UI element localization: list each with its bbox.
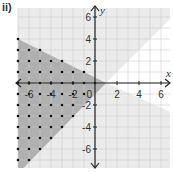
lattice-dot	[17, 159, 20, 162]
x-tick-label: 4	[136, 89, 142, 100]
lattice-dot	[17, 137, 20, 140]
lattice-dot	[61, 60, 64, 63]
x-tick-label: -6	[25, 89, 34, 100]
lattice-dot	[61, 104, 64, 107]
lattice-dot	[28, 148, 31, 151]
coordinate-plane: -6-4-2246642-2-4-60xy	[0, 0, 173, 172]
lattice-dot	[72, 115, 75, 118]
y-tick-label: -4	[82, 122, 91, 133]
lattice-dot	[28, 126, 31, 129]
lattice-dot	[17, 126, 20, 129]
x-tick-label: 6	[158, 89, 164, 100]
lattice-dot	[61, 115, 64, 118]
lattice-dot	[39, 104, 42, 107]
lattice-dot	[50, 137, 53, 140]
lattice-dot	[61, 71, 64, 74]
shaded-regions	[18, 8, 170, 168]
lattice-dot	[39, 148, 42, 151]
lattice-dot	[39, 49, 42, 52]
lattice-dot	[28, 49, 31, 52]
y-axis-name: y	[99, 4, 105, 16]
lattice-dot	[83, 71, 86, 74]
lattice-dot	[50, 60, 53, 63]
lattice-dot	[28, 137, 31, 140]
lattice-dot	[28, 60, 31, 63]
lattice-dot	[17, 49, 20, 52]
y-tick-label: 2	[85, 56, 91, 67]
lattice-dot	[50, 104, 53, 107]
lattice-dot	[17, 60, 20, 63]
lattice-dot	[39, 60, 42, 63]
lattice-dot	[28, 71, 31, 74]
lattice-dot	[83, 93, 86, 96]
lattice-dot	[17, 115, 20, 118]
lattice-dot	[17, 104, 20, 107]
y-tick-label: -2	[82, 100, 91, 111]
lattice-dot	[61, 126, 64, 129]
lattice-dot	[61, 93, 64, 96]
y-tick-label: 6	[85, 12, 91, 23]
lattice-dot	[28, 159, 31, 162]
lattice-dot	[72, 71, 75, 74]
x-tick-label: 2	[114, 89, 120, 100]
lattice-dot	[39, 137, 42, 140]
lattice-dot	[50, 71, 53, 74]
y-tick-label: -6	[82, 144, 91, 155]
lattice-dot	[17, 38, 20, 41]
lattice-dot	[17, 93, 20, 96]
lattice-dot	[28, 115, 31, 118]
x-tick-label: -2	[69, 89, 78, 100]
lattice-dot	[39, 115, 42, 118]
lattice-dot	[50, 126, 53, 129]
lattice-dot	[17, 148, 20, 151]
x-tick-label: -4	[47, 89, 56, 100]
lattice-dot	[28, 104, 31, 107]
x-axis-name: x	[165, 67, 171, 79]
lattice-dot	[72, 104, 75, 107]
lattice-dot	[50, 115, 53, 118]
lattice-dot	[39, 71, 42, 74]
y-tick-label: 4	[85, 34, 91, 45]
origin-label: 0	[86, 89, 92, 100]
lattice-dot	[39, 126, 42, 129]
lattice-dot	[17, 71, 20, 74]
lattice-dot	[39, 93, 42, 96]
